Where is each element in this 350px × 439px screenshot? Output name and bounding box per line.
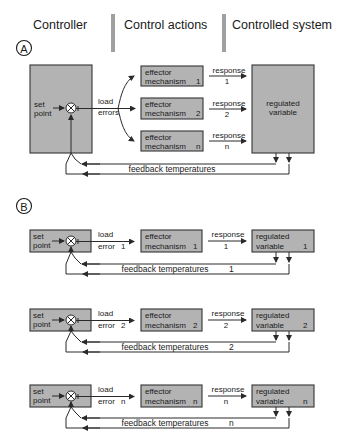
- comparator-icon: [66, 315, 76, 325]
- svg-text:error: error: [98, 242, 115, 251]
- svg-text:1: 1: [229, 264, 234, 274]
- svg-text:1: 1: [224, 242, 229, 251]
- svg-text:effector: effector: [145, 133, 172, 142]
- effector-1: effector mechanism 1: [141, 66, 203, 86]
- feedback-label: feedback temperatures: [129, 164, 216, 174]
- svg-text:effector: effector: [145, 387, 172, 396]
- panel-b-marker: B: [17, 199, 32, 214]
- svg-text:load: load: [98, 385, 113, 394]
- svg-text:variable: variable: [256, 321, 285, 330]
- svg-text:n: n: [193, 397, 197, 406]
- panel-a: A set point load errors effector mechani…: [17, 41, 315, 175]
- svg-text:regulated: regulated: [256, 311, 289, 320]
- svg-text:n: n: [225, 142, 229, 151]
- svg-text:regulated: regulated: [256, 232, 289, 241]
- svg-text:mechanism: mechanism: [145, 242, 186, 251]
- panel-a-marker: A: [17, 41, 32, 56]
- svg-text:point: point: [33, 320, 51, 329]
- svg-text:error: error: [98, 321, 115, 330]
- svg-text:A: A: [20, 43, 28, 55]
- svg-text:n: n: [196, 142, 200, 151]
- svg-text:response: response: [213, 99, 246, 108]
- comparator-icon: [66, 391, 76, 401]
- svg-text:1: 1: [196, 77, 201, 86]
- svg-text:load: load: [98, 230, 113, 239]
- svg-text:feedback temperatures: feedback temperatures: [122, 418, 209, 428]
- header-controller: Controller: [33, 18, 87, 32]
- svg-text:feedback temperatures: feedback temperatures: [122, 264, 209, 274]
- svg-text:mechanism: mechanism: [145, 142, 186, 151]
- svg-text:effector: effector: [145, 100, 172, 109]
- svg-text:set: set: [33, 311, 44, 320]
- svg-text:response: response: [212, 309, 245, 318]
- svg-text:regulated: regulated: [256, 387, 289, 396]
- svg-text:set: set: [33, 232, 44, 241]
- svg-text:variable: variable: [256, 397, 285, 406]
- set-point-label: set: [34, 100, 45, 109]
- svg-text:response: response: [212, 385, 245, 394]
- svg-text:effector: effector: [145, 68, 172, 77]
- svg-text:feedback temperatures: feedback temperatures: [122, 342, 209, 352]
- response-n: response n: [209, 131, 246, 151]
- svg-text:n: n: [121, 397, 125, 406]
- effector-2: effector mechanism 2: [141, 98, 203, 119]
- response-2: response 2: [209, 99, 246, 119]
- column-headers: Controller Control actions Controlled sy…: [33, 14, 332, 52]
- panel-b-row-n: set point load error n effector mechanis…: [30, 385, 314, 428]
- header-controlled-system: Controlled system: [232, 18, 332, 32]
- svg-text:variable: variable: [256, 242, 285, 251]
- comparator-icon: [66, 236, 76, 246]
- svg-text:response: response: [212, 230, 245, 239]
- thermoregulation-diagram: Controller Control actions Controlled sy…: [0, 0, 350, 439]
- svg-text:1: 1: [225, 77, 230, 86]
- svg-text:variable: variable: [269, 108, 298, 117]
- svg-text:2: 2: [121, 321, 126, 330]
- effector-n: effector mechanism n: [141, 131, 203, 151]
- svg-text:1: 1: [121, 242, 126, 251]
- svg-text:mechanism: mechanism: [145, 77, 186, 86]
- svg-text:2: 2: [193, 321, 198, 330]
- svg-text:mechanism: mechanism: [145, 109, 186, 118]
- svg-text:n: n: [224, 397, 228, 406]
- svg-text:effector: effector: [145, 311, 172, 320]
- svg-text:error: error: [98, 397, 115, 406]
- svg-text:2: 2: [229, 342, 234, 352]
- svg-text:response: response: [213, 66, 246, 75]
- svg-text:point: point: [33, 241, 51, 250]
- svg-text:n: n: [229, 418, 234, 428]
- svg-text:mechanism: mechanism: [145, 321, 186, 330]
- panel-b-row-1: set point load error 1 effector mechanis…: [30, 230, 314, 274]
- svg-text:1: 1: [303, 242, 308, 251]
- svg-text:point: point: [33, 396, 51, 405]
- svg-text:load: load: [98, 309, 113, 318]
- svg-text:point: point: [34, 109, 52, 118]
- errors-label: errors: [98, 108, 119, 117]
- svg-text:2: 2: [225, 110, 230, 119]
- response-1: response 1: [209, 66, 246, 86]
- svg-text:effector: effector: [145, 232, 172, 241]
- svg-text:n: n: [303, 397, 307, 406]
- svg-text:2: 2: [224, 321, 229, 330]
- panel-b-row-2: set point load error 2 effector mechanis…: [30, 309, 314, 352]
- svg-text:regulated: regulated: [266, 99, 299, 108]
- header-control-actions: Control actions: [124, 18, 207, 32]
- svg-text:mechanism: mechanism: [145, 397, 186, 406]
- svg-text:2: 2: [196, 109, 201, 118]
- svg-text:1: 1: [193, 242, 198, 251]
- svg-text:B: B: [20, 201, 27, 213]
- comparator-icon: [66, 103, 76, 113]
- svg-text:2: 2: [303, 321, 308, 330]
- svg-text:response: response: [213, 131, 246, 140]
- svg-text:set: set: [33, 387, 44, 396]
- load-label: load: [98, 97, 113, 106]
